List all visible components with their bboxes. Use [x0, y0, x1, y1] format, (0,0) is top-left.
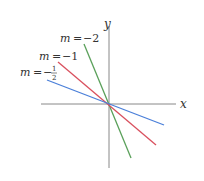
svg-text:2: 2	[52, 74, 56, 82]
line-slope-neg2	[84, 44, 131, 158]
svg-text:=: =	[33, 66, 42, 79]
x-axis-label: x	[180, 97, 187, 111]
line-slope-neg-half	[47, 80, 164, 125]
svg-text:−: −	[43, 66, 52, 79]
svg-text:1: 1	[52, 65, 56, 73]
svg-text:−2: −2	[83, 32, 99, 45]
svg-text:=: =	[73, 32, 82, 45]
svg-text:−1: −1	[62, 50, 78, 63]
svg-text:=: =	[52, 50, 61, 63]
slope-diagram: x y m = −2 m = −1 m = − 1 2	[0, 0, 204, 181]
svg-text:m: m	[39, 50, 49, 63]
label-slope-neg-half: m = − 1 2	[20, 65, 57, 82]
label-slope-neg1: m = −1	[39, 50, 78, 63]
svg-text:m: m	[20, 66, 30, 79]
svg-text:m: m	[60, 32, 70, 45]
label-slope-neg2: m = −2	[60, 32, 99, 45]
y-axis-label: y	[103, 17, 111, 31]
